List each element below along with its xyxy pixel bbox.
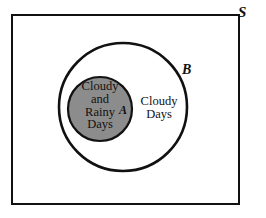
set-b-label: B (182, 63, 202, 77)
venn-diagram-figure: S B Cloudy and Rainy Days A Cloudy Days (0, 0, 266, 218)
universe-label-s: S (238, 5, 262, 20)
set-a-label: A (119, 104, 133, 116)
venn-diagram-canvas (0, 0, 266, 218)
set-b-description-text: Cloudy Days (134, 95, 184, 121)
